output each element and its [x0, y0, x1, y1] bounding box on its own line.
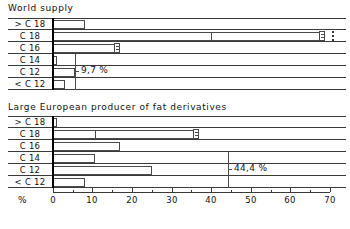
x-tick-30 [172, 188, 173, 192]
x-tick-minor [112, 190, 113, 192]
continuation-dots-icon [332, 31, 335, 42]
bar-c16 [53, 142, 120, 151]
row-divider [8, 89, 346, 90]
x-tick-label-20: 20 [121, 195, 143, 205]
row-label-c18: C 18 [10, 31, 50, 42]
bar-c14 [53, 154, 95, 163]
panel-title-bottom: Large European producer of fat derivativ… [8, 102, 227, 112]
axis-break-icon [193, 129, 199, 139]
bar-c18 [53, 32, 325, 41]
brace-nose [75, 71, 79, 72]
annotation-label-bottom: 44,4 % [234, 163, 267, 173]
row-label-c16: C 16 [10, 43, 50, 54]
row-label-c14: C 14 [10, 55, 50, 66]
row-divider [8, 187, 346, 188]
bar-subdivision-tick [95, 130, 96, 139]
annotation-label-top: 9,7 % [81, 65, 108, 75]
x-tick-label-10: 10 [81, 195, 103, 205]
x-tick-0 [53, 188, 54, 192]
x-tick-minor [73, 190, 74, 192]
x-tick-minor [152, 190, 153, 192]
x-tick-label-70: 70 [319, 195, 341, 205]
panel-european-producer: Large European producer of fat derivativ… [0, 100, 350, 229]
axis-break-icon [114, 43, 120, 53]
bar-c12 [53, 68, 75, 77]
bar-lt-c12 [53, 80, 65, 89]
x-tick-20 [132, 188, 133, 192]
row-label-gt-c18: > C 18 [10, 117, 50, 128]
x-axis-unit-label: % [18, 195, 27, 205]
x-tick-70 [330, 188, 331, 192]
panel-world-supply: World supply > C 18 C 18 [0, 0, 350, 96]
row-label-lt-c12: < C 12 [10, 79, 50, 90]
x-tick-label-30: 30 [161, 195, 183, 205]
brace-nose [228, 169, 232, 170]
bar-gt-c18 [53, 20, 85, 29]
bar-subdivision-tick [211, 32, 212, 41]
x-tick-label-40: 40 [200, 195, 222, 205]
x-tick-minor [271, 190, 272, 192]
bar-c16 [53, 44, 120, 53]
x-axis-line [53, 192, 330, 193]
x-tick-minor [191, 190, 192, 192]
bar-c18 [53, 130, 199, 139]
zero-baseline-top [52, 18, 54, 90]
bar-lt-c12 [53, 178, 85, 187]
x-tick-10 [92, 188, 93, 192]
zero-baseline-bottom [52, 116, 54, 188]
x-tick-label-0: 0 [42, 195, 64, 205]
row-divider [8, 116, 346, 117]
figure-root: World supply > C 18 C 18 [0, 0, 350, 229]
row-label-lt-c12: < C 12 [10, 177, 50, 188]
row-label-c12: C 12 [10, 67, 50, 78]
x-tick-40 [211, 188, 212, 192]
row-label-gt-c18: > C 18 [10, 19, 50, 30]
x-tick-label-50: 50 [240, 195, 262, 205]
brace-stem [75, 54, 76, 90]
row-label-c14: C 14 [10, 153, 50, 164]
row-label-c18: C 18 [10, 129, 50, 140]
bar-c12 [53, 166, 152, 175]
x-tick-label-60: 60 [279, 195, 301, 205]
x-tick-minor [310, 190, 311, 192]
axis-break-icon [319, 31, 325, 41]
brace-stem [228, 152, 229, 188]
x-tick-60 [290, 188, 291, 192]
row-label-c16: C 16 [10, 141, 50, 152]
panel-title-top: World supply [8, 3, 74, 13]
x-tick-minor [231, 190, 232, 192]
x-tick-50 [251, 188, 252, 192]
row-label-c12: C 12 [10, 165, 50, 176]
